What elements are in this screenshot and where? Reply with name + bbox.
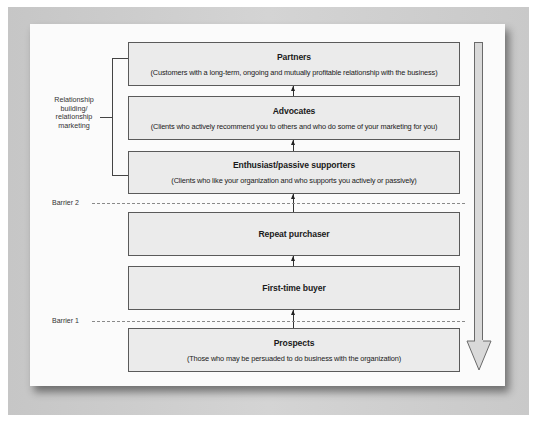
up-arrow-icon bbox=[293, 86, 294, 96]
stage-repeat-purchaser: Repeat purchaser bbox=[128, 212, 460, 256]
down-arrow-icon bbox=[466, 340, 492, 372]
stage-title: Enthusiast/passive supporters bbox=[233, 160, 355, 170]
stage-title: Advocates bbox=[273, 106, 316, 116]
stage-title: Prospects bbox=[274, 338, 315, 348]
stage-title: Repeat purchaser bbox=[259, 229, 330, 239]
barrier-2-label: Barrier 2 bbox=[52, 199, 79, 206]
stage-title: First-time buyer bbox=[262, 283, 325, 293]
stage-description: (Those who may be persuaded to do busine… bbox=[187, 354, 401, 363]
stage-description: (Clients who actively recommend you to o… bbox=[151, 122, 438, 131]
bracket-bottom-tick bbox=[112, 175, 128, 176]
stage-title: Partners bbox=[277, 52, 311, 62]
barrier-1-label: Barrier 1 bbox=[52, 317, 79, 324]
up-arrow-icon bbox=[293, 140, 294, 151]
bracket-vertical bbox=[112, 58, 113, 176]
barrier-2-line bbox=[92, 203, 465, 204]
stage-advocates: Advocates (Clients who actively recommen… bbox=[128, 96, 460, 140]
bracket-top-tick bbox=[112, 58, 128, 59]
barrier-1-line bbox=[92, 321, 465, 322]
up-arrow-icon bbox=[293, 256, 294, 266]
stage-enthusiast-passive-supporters: Enthusiast/passive supporters (Clients w… bbox=[128, 151, 460, 194]
up-arrow-icon bbox=[293, 310, 294, 328]
stage-partners: Partners (Customers with a long-term, on… bbox=[128, 42, 460, 86]
relationship-marketing-label: Relationship building/ relationship mark… bbox=[50, 96, 98, 130]
bracket-label-tick bbox=[100, 117, 112, 118]
side-label-line: marketing bbox=[50, 122, 98, 131]
stage-prospects: Prospects (Those who may be persuaded to… bbox=[128, 328, 460, 372]
stage-first-time-buyer: First-time buyer bbox=[128, 266, 460, 310]
flow-arrow-shaft bbox=[474, 42, 483, 342]
stage-description: (Clients who like your organization and … bbox=[171, 176, 416, 185]
stage-description: (Customers with a long-term, ongoing and… bbox=[151, 68, 438, 77]
